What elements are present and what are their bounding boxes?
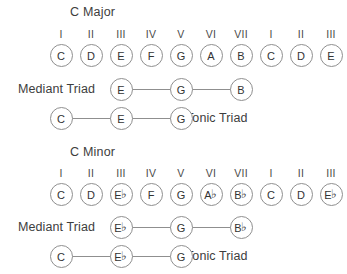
triad-connector-line [129, 256, 173, 257]
triad-label-tonic-triad-major: Tonic Triad [186, 111, 248, 125]
scale-degree: IV [146, 167, 157, 179]
scale-degree: VII [234, 28, 248, 40]
note-label: B [237, 50, 244, 61]
note-label: F [148, 50, 155, 61]
scale-degree: I [269, 28, 272, 40]
triad-note: G [170, 107, 193, 130]
note-label: B♭ [234, 189, 247, 201]
flat-accidental-icon: ♭ [241, 220, 247, 234]
scale-note: C [50, 183, 73, 206]
note-letter: G [177, 250, 186, 262]
note-letter: G [177, 49, 186, 61]
section-title-c-minor: C Minor [70, 145, 115, 159]
note-letter: D [297, 188, 305, 200]
triad-note: B [230, 78, 253, 101]
scale-note: A♭ [200, 183, 223, 206]
note-label: C [57, 113, 65, 124]
triad-row-tonic-triad-minor: CE♭G [0, 245, 347, 271]
scale-note: G [170, 183, 193, 206]
triad-label-mediant-triad-major: Mediant Triad [18, 82, 95, 96]
scale-degree: IV [146, 28, 157, 40]
note-label: E♭ [114, 222, 127, 234]
scale-note: F [140, 44, 163, 67]
flat-accidental-icon: ♭ [241, 187, 247, 201]
note-label: E [117, 113, 124, 124]
note-letter: A [207, 49, 214, 61]
scale-note: C [260, 44, 283, 67]
note-label: D [297, 50, 305, 61]
note-label: G [177, 50, 186, 61]
note-letter: B [237, 83, 244, 95]
note-letter: C [57, 188, 65, 200]
note-label: E [327, 50, 334, 61]
triad-connector-line [189, 227, 233, 228]
triad-row-tonic-triad-major: CEG [0, 107, 347, 133]
triad-note: E [110, 107, 133, 130]
scale-degree: I [269, 167, 272, 179]
note-label: E [117, 50, 124, 61]
note-letter: D [297, 49, 305, 61]
scale-note: E♭ [320, 183, 343, 206]
section-title-c-major: C Major [70, 5, 115, 19]
triad-note: G [170, 216, 193, 239]
flat-accidental-icon: ♭ [121, 220, 127, 234]
scale-degree: II [88, 167, 94, 179]
note-label: G [177, 189, 186, 200]
scale-note: D [80, 44, 103, 67]
scale-degree: VII [234, 167, 248, 179]
scale-degree: I [59, 167, 62, 179]
note-label: F [148, 189, 155, 200]
triad-note: G [170, 245, 193, 268]
triad-note: G [170, 78, 193, 101]
triad-note: B♭ [230, 216, 253, 239]
scale-note: F [140, 183, 163, 206]
note-label: G [177, 113, 186, 124]
triad-note: E♭ [110, 245, 133, 268]
flat-accidental-icon: ♭ [211, 187, 217, 201]
note-label: C [267, 50, 275, 61]
note-label: E♭ [114, 189, 127, 201]
scale-note: E [110, 44, 133, 67]
note-letter: D [87, 188, 95, 200]
scale-degree: II [88, 28, 94, 40]
note-letter: E [117, 83, 124, 95]
note-letter: F [148, 49, 155, 61]
note-letter: C [57, 112, 65, 124]
triad-connector-line [69, 256, 113, 257]
scale-degree: III [326, 28, 336, 40]
flat-accidental-icon: ♭ [331, 187, 337, 201]
triad-connector-line [129, 89, 173, 90]
note-letter: E [117, 49, 124, 61]
note-label: C [267, 189, 275, 200]
note-label: A [207, 50, 214, 61]
note-label: D [87, 50, 95, 61]
triad-note: E♭ [110, 216, 133, 239]
scale-degree: V [177, 28, 184, 40]
note-label: C [57, 189, 65, 200]
note-letter: G [177, 188, 186, 200]
note-label: G [177, 222, 186, 233]
note-letter: F [148, 188, 155, 200]
flat-accidental-icon: ♭ [121, 187, 127, 201]
note-label: B [237, 84, 244, 95]
scale-note: B [230, 44, 253, 67]
triad-connector-line [129, 118, 173, 119]
triad-connector-line [189, 89, 233, 90]
triad-connector-line [129, 227, 173, 228]
scale-note: G [170, 44, 193, 67]
note-letter: E [327, 49, 334, 61]
scale-note: C [260, 183, 283, 206]
scale-degree: III [116, 28, 126, 40]
scale-note-row-c-minor: CDE♭FGA♭B♭CDE♭ [0, 183, 347, 209]
scale-degree: I [59, 28, 62, 40]
scale-note: E [320, 44, 343, 67]
triad-note: C [50, 245, 73, 268]
note-label: D [297, 189, 305, 200]
scale-note-row-c-major: CDEFGABCDE [0, 44, 347, 70]
note-label: D [87, 189, 95, 200]
scale-degree-row-c-major: IIIIIIIVVVIVIIIIIIII [0, 28, 347, 42]
note-label: B♭ [234, 222, 247, 234]
scale-note: C [50, 44, 73, 67]
triad-label-mediant-triad-minor: Mediant Triad [18, 220, 95, 234]
note-label: E♭ [324, 189, 337, 201]
